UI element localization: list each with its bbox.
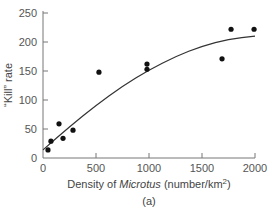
x-tick-label: 2000	[243, 162, 267, 174]
chart: 0500100015002000050100150200250 “Kill” r…	[0, 0, 271, 222]
fitted-curve-path	[43, 36, 255, 150]
data-point	[251, 27, 256, 32]
data-point	[60, 136, 65, 141]
fitted-curve	[43, 36, 255, 150]
x-tick-label: 1000	[137, 162, 161, 174]
y-tick-label: 50	[25, 123, 37, 135]
data-point	[45, 147, 50, 152]
y-axis-label: “Kill” rate	[2, 63, 14, 107]
y-tick-label: 100	[19, 94, 37, 106]
data-point	[48, 139, 53, 144]
x-tick-label: 500	[87, 162, 105, 174]
y-tick-label: 200	[19, 36, 37, 48]
data-point	[144, 61, 149, 66]
y-tick-label: 250	[19, 7, 37, 19]
axes: 0500100015002000050100150200250	[19, 7, 268, 174]
y-tick-label: 0	[31, 152, 37, 164]
figure-caption: (a)	[142, 195, 155, 207]
data-point	[219, 56, 224, 61]
data-point	[56, 121, 61, 126]
data-points	[45, 27, 256, 153]
data-point	[70, 128, 75, 133]
data-point	[96, 70, 101, 75]
y-tick-label: 150	[19, 65, 37, 77]
data-point	[228, 27, 233, 32]
data-point	[144, 67, 149, 72]
x-tick-label: 1500	[190, 162, 214, 174]
x-tick-label: 0	[40, 162, 46, 174]
x-axis-label: Density of Microtus (number/km2)	[67, 177, 230, 190]
